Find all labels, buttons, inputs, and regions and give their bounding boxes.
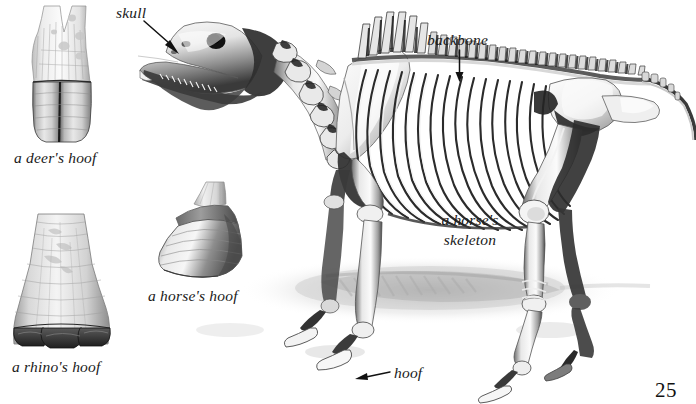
horse-skeleton-caption: a horse's skeleton (432, 210, 508, 250)
page-number: 25 (655, 378, 677, 403)
skull-pointer-arrow (138, 16, 186, 60)
deer-hoof-caption: a deer's hoof (14, 148, 97, 168)
horse-skeleton-illustration (130, 0, 696, 404)
hoof-label: hoof (394, 363, 422, 383)
backbone-pointer-arrow (452, 48, 468, 84)
front-legs (284, 152, 383, 370)
rhino-hoof-illustration (4, 208, 120, 356)
backbone-label: backbone (427, 30, 488, 50)
scapula-bone (336, 48, 410, 159)
hoof-pointer-arrow (352, 368, 394, 384)
deer-hoof-illustration (14, 2, 114, 147)
book-page: a deer's hoof (0, 0, 696, 404)
rhino-hoof-caption: a rhino's hoof (12, 357, 101, 377)
